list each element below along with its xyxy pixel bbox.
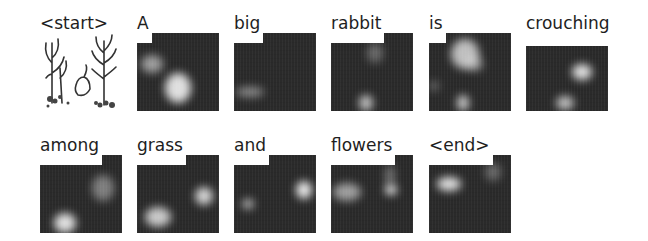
word-label: and (234, 135, 269, 165)
panel-and: and (234, 135, 316, 235)
input-image (40, 33, 122, 111)
word-label: flowers (331, 135, 395, 165)
panel-crouching: crouching (526, 13, 608, 113)
attention-map (234, 33, 316, 111)
word-label: crouching (526, 13, 613, 43)
panel-big: big (234, 13, 316, 113)
attention-map (429, 33, 511, 111)
word-label: A (137, 13, 152, 43)
attention-map (331, 33, 413, 111)
panel-among: among (40, 135, 122, 235)
attention-map (40, 155, 122, 233)
panel-start: <start> (40, 13, 122, 113)
word-label: big (234, 13, 263, 43)
word-label: <end> (429, 135, 493, 165)
attention-map (137, 155, 219, 233)
word-label: grass (137, 135, 186, 165)
attention-map (429, 155, 511, 233)
panel-rabbit: rabbit (331, 13, 413, 113)
attention-map (234, 155, 316, 233)
attention-map (526, 46, 608, 111)
panel-grass: grass (137, 135, 219, 235)
trees-rabbit-sketch-icon (40, 33, 122, 111)
panel-is: is (429, 13, 511, 113)
panel-flowers: flowers (331, 135, 413, 235)
word-label: rabbit (331, 13, 384, 43)
word-label: <start> (40, 13, 111, 43)
panel-a: A (137, 13, 219, 113)
attention-map (137, 33, 219, 111)
attention-map (331, 155, 413, 233)
panel-end: <end> (429, 135, 511, 235)
word-label: is (429, 13, 446, 43)
word-label: among (40, 135, 102, 165)
